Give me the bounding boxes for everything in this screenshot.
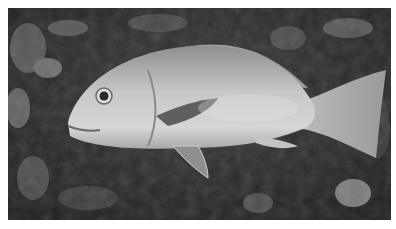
fish-highlight: [198, 94, 298, 122]
caption-text: [0, 0, 396, 6]
fish-illustration: [8, 8, 391, 220]
fish-photo: [8, 8, 391, 220]
fish-pupil: [100, 92, 109, 101]
